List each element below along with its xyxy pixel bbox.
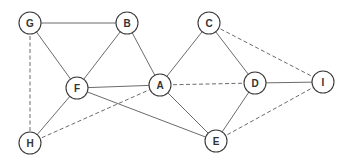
node-i: I: [312, 71, 334, 93]
node-g: G: [19, 12, 41, 34]
node-label: C: [205, 18, 212, 29]
node-label: F: [74, 83, 80, 94]
node-b: B: [116, 12, 138, 34]
edge-a-d: [160, 83, 255, 85]
node-f: F: [66, 77, 88, 99]
node-h: H: [19, 132, 41, 154]
edge-e-i: [216, 82, 323, 141]
edge-f-a: [77, 85, 160, 88]
edge-f-e: [77, 88, 216, 141]
edge-c-a: [160, 23, 209, 85]
node-label: H: [26, 138, 33, 149]
node-a: A: [149, 74, 171, 96]
edge-a-e: [160, 85, 216, 141]
node-label: I: [322, 77, 325, 88]
node-d: D: [244, 72, 266, 94]
node-label: G: [26, 18, 34, 29]
node-label: D: [251, 78, 258, 89]
graph-diagram: GBCFADIHE: [0, 0, 353, 167]
node-label: B: [123, 18, 130, 29]
edge-c-i: [209, 23, 323, 82]
node-e: E: [205, 130, 227, 152]
edge-g-f: [30, 23, 77, 88]
node-label: A: [156, 80, 163, 91]
edge-b-f: [77, 23, 127, 88]
edge-h-a: [30, 85, 160, 143]
node-c: C: [198, 12, 220, 34]
node-label: E: [213, 136, 220, 147]
